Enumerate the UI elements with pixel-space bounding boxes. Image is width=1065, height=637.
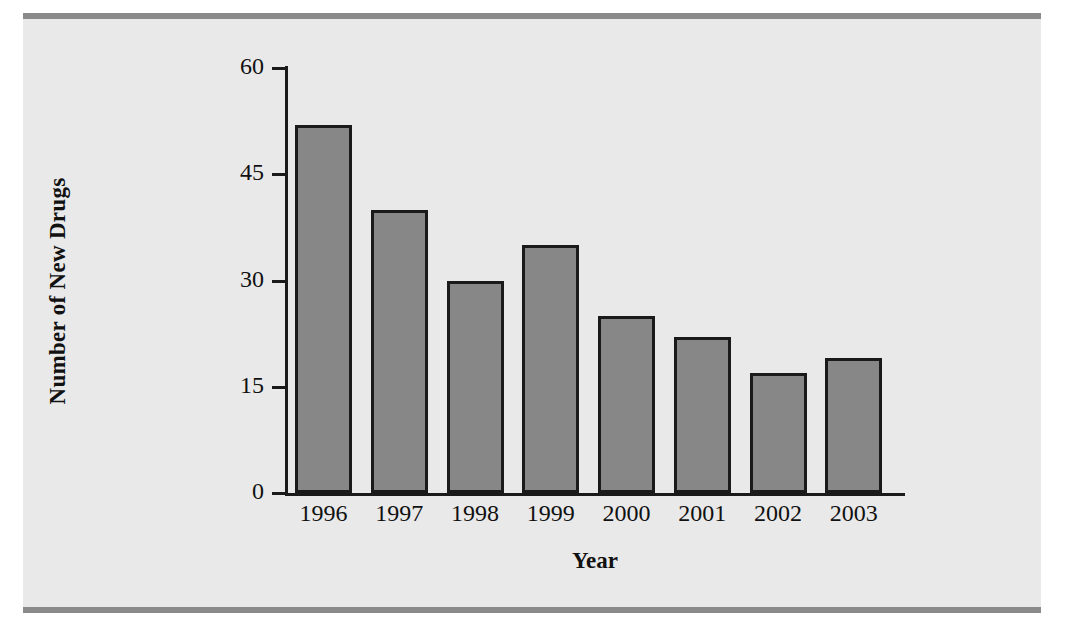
y-axis-tick-label-text: 60 [204, 54, 264, 78]
x-axis-tick-label: 2000 [588, 500, 665, 526]
x-axis-tick-label: 1996 [285, 500, 362, 526]
y-axis-tick-label-text: 45 [204, 160, 264, 184]
y-axis-tick-label-text: 15 [204, 373, 264, 397]
bar [371, 210, 428, 493]
x-axis-tick-label: 1997 [361, 500, 438, 526]
y-axis-tick-label: 45 [200, 160, 264, 184]
bar [674, 337, 731, 493]
bar [750, 373, 807, 493]
y-axis-tick-label: 0 [200, 479, 264, 503]
bar [522, 245, 579, 493]
y-axis-tick-mark [272, 386, 286, 389]
y-axis-tick-mark [272, 67, 286, 70]
y-axis-title: Number of New Drugs [45, 141, 71, 441]
y-axis-tick-label: 30 [200, 267, 264, 291]
bar [825, 358, 882, 493]
x-axis-tick-label: 2001 [664, 500, 741, 526]
y-axis-tick-mark [272, 280, 286, 283]
y-axis-tick-label: 15 [200, 373, 264, 397]
x-axis-tick-label: 2002 [740, 500, 817, 526]
x-axis-line [285, 493, 905, 496]
bar [295, 125, 352, 493]
bar [598, 316, 655, 493]
x-axis-tick-label: 1999 [512, 500, 589, 526]
x-axis-tick-label: 2003 [815, 500, 892, 526]
x-axis-tick-label: 1998 [437, 500, 514, 526]
screenshot-root: 015304560 199619971998199920002001200220… [0, 0, 1065, 637]
y-axis-tick-label-text: 30 [204, 267, 264, 291]
y-axis-tick-mark [272, 492, 286, 495]
bar-chart: 015304560 199619971998199920002001200220… [0, 0, 1065, 637]
y-axis-tick-label-text: 0 [204, 479, 264, 503]
x-axis-title: Year [285, 548, 905, 574]
y-axis-tick-label: 60 [200, 54, 264, 78]
y-axis-tick-mark [272, 173, 286, 176]
bar [447, 281, 504, 494]
